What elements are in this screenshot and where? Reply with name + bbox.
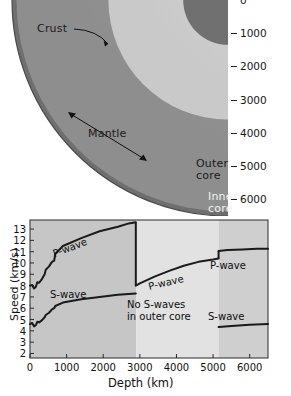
depth-tick-label: 0 bbox=[240, 0, 247, 6]
depth-tick-mark bbox=[231, 33, 237, 34]
depth-tick-mark bbox=[231, 166, 237, 167]
depth-tick-mark bbox=[231, 199, 237, 200]
depth-tick-mark bbox=[231, 100, 237, 101]
depth-tick-mark bbox=[231, 133, 237, 134]
crust-label: Crust bbox=[37, 22, 67, 35]
chart-y-tick-label: 3 bbox=[0, 337, 26, 348]
depth-tick-label: 1000 bbox=[240, 27, 267, 39]
chart-y-tick-label: 6 bbox=[0, 303, 26, 314]
annotation-p-wave-inner-core: P-wave bbox=[210, 260, 246, 271]
annotation-no-s-waves-line2: in outer core bbox=[127, 311, 191, 323]
chart-x-tick-label: 5000 bbox=[200, 362, 225, 373]
depth-tick-label: 6000 bbox=[240, 193, 267, 205]
chart-x-tick-label: 4000 bbox=[164, 362, 189, 373]
chart-x-tick-label: 0 bbox=[27, 362, 33, 373]
chart-y-tick-label: 5 bbox=[0, 314, 26, 325]
chart-y-tick-label: 11 bbox=[0, 246, 26, 257]
chart-band-inner-core bbox=[219, 220, 268, 358]
depth-tick-mark bbox=[231, 66, 237, 67]
annotation-no-s-waves-note: No S-wavesin outer core bbox=[127, 299, 191, 323]
outer-core-label: Outer core bbox=[196, 158, 228, 181]
chart-x-tick-label: 1000 bbox=[54, 362, 79, 373]
chart-y-tick-label: 10 bbox=[0, 257, 26, 268]
depth-tick-label: 3000 bbox=[240, 94, 267, 106]
depth-axis: Depth (km) 0100020003000400050006000 bbox=[228, 0, 291, 216]
chart-y-tick-label: 8 bbox=[0, 280, 26, 291]
chart-x-axis-title: Depth (km) bbox=[108, 376, 174, 390]
mantle-label: Mantle bbox=[88, 127, 127, 140]
outer-core-label-line2: core bbox=[196, 170, 228, 182]
annotation-s-wave-inner-core: S-wave bbox=[208, 311, 244, 322]
chart-y-tick-label: 9 bbox=[0, 269, 26, 280]
depth-tick-label: 2000 bbox=[240, 60, 267, 72]
chart-y-tick-label: 12 bbox=[0, 235, 26, 246]
seismic-speed-chart: Speed (km/s) Depth (km) 2345678910111213… bbox=[0, 216, 291, 396]
chart-y-tick-label: 7 bbox=[0, 291, 26, 302]
annotation-s-wave-mantle: S-wave bbox=[50, 289, 86, 300]
chart-x-tick-label: 2000 bbox=[90, 362, 115, 373]
chart-y-tick-label: 4 bbox=[0, 325, 26, 336]
depth-tick-label: 4000 bbox=[240, 127, 267, 139]
chart-x-tick-label: 6000 bbox=[237, 362, 262, 373]
chart-y-tick-label: 13 bbox=[0, 224, 26, 235]
annotation-no-s-waves-line1: No S-waves bbox=[127, 299, 191, 311]
outer-core-label-line1: Outer bbox=[196, 158, 228, 170]
chart-x-tick-label: 3000 bbox=[127, 362, 152, 373]
earth-cross-section-diagram: Crust Mantle Outer core Inner core Depth… bbox=[0, 0, 291, 216]
depth-tick-label: 5000 bbox=[240, 160, 267, 172]
chart-y-tick-label: 2 bbox=[0, 348, 26, 359]
